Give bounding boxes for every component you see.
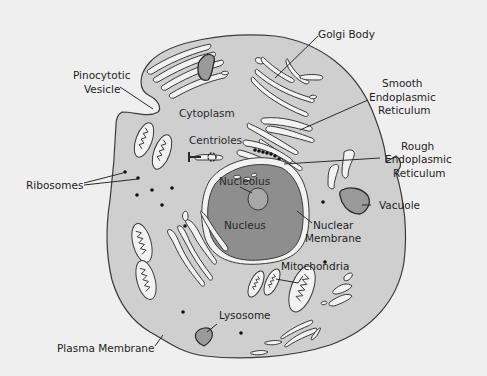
label-ribosomes: Ribosomes [26,179,83,191]
label-vacuole: Vacuole [379,199,420,211]
label-nucleolus: Nucleolus [219,175,270,187]
label-nucleus: Nucleus [224,219,266,231]
label-plasma-membrane: Plasma Membrane [57,342,154,354]
nucleolus [248,188,268,210]
label-golgi-body: Golgi Body [318,28,375,40]
label-cytoplasm: Cytoplasm [179,107,235,119]
label-rough-er-3: Reticulum [393,167,446,179]
label-pinocytotic-vesicle-1: Pinocytotic [73,69,131,81]
label-lysosome: Lysosome [219,309,271,321]
label-rough-er-1: Rough [401,140,434,152]
label-smooth-er-3: Reticulum [378,104,431,116]
label-smooth-er-1: Smooth [382,77,423,89]
animal-cell-diagram: Golgi Body Pinocytotic Vesicle Cytoplasm… [0,0,487,376]
label-rough-er-2: Endoplasmic [385,153,452,165]
label-nuclear-membrane-1: Nuclear [313,219,354,231]
label-smooth-er-2: Endoplasmic [369,91,436,103]
label-nuclear-membrane-2: Membrane [305,232,361,244]
label-pinocytotic-vesicle-2: Vesicle [84,83,120,95]
label-centrioles: Centrioles [189,134,242,146]
label-mitochondria: Mitochondria [281,260,349,272]
